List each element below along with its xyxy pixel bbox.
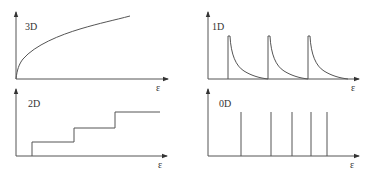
xlabel-3d: ε xyxy=(156,82,160,93)
curve-1d-peak-2 xyxy=(268,36,308,79)
xlabel-0d: ε xyxy=(350,159,354,170)
xlabel-2d: ε xyxy=(158,159,162,170)
label-3d: 3D xyxy=(25,21,37,32)
label-1d: 1D xyxy=(212,21,224,32)
label-0d: 0D xyxy=(219,98,231,109)
label-2d: 2D xyxy=(28,98,40,109)
curve-1d-peak-3 xyxy=(308,36,348,79)
panel-1d: 1D ε xyxy=(208,12,359,93)
panel-0d: 0D ε xyxy=(208,89,359,170)
panel-3d: 3D ε xyxy=(16,12,168,93)
staircase-2d xyxy=(32,112,160,156)
dos-diagram: 3D ε 1D ε 2D ε 0D ε xyxy=(0,0,369,175)
panel-2d: 2D ε xyxy=(16,89,167,170)
curve-1d-peak-1 xyxy=(228,36,268,79)
xlabel-1d: ε xyxy=(351,82,355,93)
